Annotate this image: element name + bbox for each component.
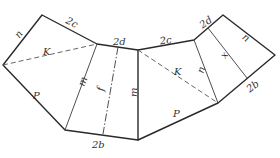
label-m-left: m [76, 75, 90, 88]
transition-piece-net-diagram: n 2c K P 2d m f m 2b 2c K n P 2d x n 2b [0, 0, 280, 158]
label-K-right: K [173, 66, 182, 77]
label-2b-mid: 2b [91, 139, 105, 150]
label-2d-mid: 2d [112, 36, 126, 47]
label-n-inner-right: n [195, 65, 208, 75]
label-x: x [218, 49, 230, 60]
left-m-line [65, 44, 97, 130]
label-K-left: K [42, 46, 51, 57]
label-2b-right: 2b [243, 78, 261, 95]
label-P-right: P [172, 108, 180, 119]
label-P-left: P [32, 90, 40, 101]
label-n-outer-right: n [240, 31, 252, 44]
label-2d-right: 2d [196, 14, 214, 31]
x-line [208, 28, 247, 78]
label-f: f [95, 84, 107, 93]
outline-middle-top [138, 15, 275, 140]
label-m-right: m [128, 88, 139, 97]
label-2c-right: 2c [158, 34, 173, 47]
